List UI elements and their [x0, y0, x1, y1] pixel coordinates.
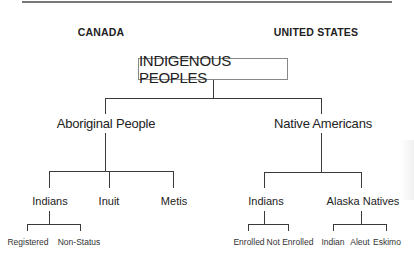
node-not-enrolled: Not Enrolled — [267, 238, 314, 247]
connector-to-eskimo — [386, 224, 387, 231]
connector-us-indians-down — [264, 211, 265, 225]
node-enrolled: Enrolled — [233, 238, 264, 247]
connector-canada-indians-horizontal — [27, 224, 81, 225]
connector-root-horizontal — [105, 98, 322, 99]
connector-alaska-down — [361, 211, 362, 225]
node-non-status: Non-Status — [58, 238, 101, 247]
connector-to-us-indians — [264, 172, 265, 188]
connector-to-non-status — [80, 224, 81, 231]
node-us-indians: Indians — [248, 196, 283, 207]
connector-to-alaska-natives — [361, 172, 362, 188]
connector-root-down — [213, 80, 214, 99]
node-aleut: Aleut — [350, 238, 369, 247]
connector-canada-horizontal — [49, 171, 174, 172]
node-inuit: Inuit — [99, 196, 120, 207]
connector-us-horizontal — [264, 172, 362, 173]
node-eskimo: Eskimo — [373, 238, 401, 247]
connector-to-not-enrolled — [288, 224, 289, 231]
top-rule — [22, 1, 392, 3]
root-node: INDIGENOUS PEOPLES — [138, 58, 288, 80]
country-label-canada: CANADA — [78, 27, 125, 38]
node-metis: Metis — [161, 196, 187, 207]
connector-us-indians-horizontal — [248, 224, 289, 225]
connector-to-canada-indians — [49, 171, 50, 188]
connector-to-us — [321, 98, 322, 114]
connector-to-indian — [333, 224, 334, 231]
node-alaska-natives: Alaska Natives — [327, 196, 400, 207]
country-label-united-states: UNITED STATES — [274, 27, 358, 38]
node-indian: Indian — [321, 238, 344, 247]
connector-to-metis — [173, 171, 174, 188]
connector-to-inuit — [109, 171, 110, 188]
node-canada-indians: Indians — [32, 196, 67, 207]
connector-canada-down — [105, 133, 106, 172]
connector-to-canada — [105, 98, 106, 114]
node-aboriginal-people: Aboriginal People — [57, 117, 156, 130]
connector-to-registered — [27, 224, 28, 231]
connector-to-enrolled — [248, 224, 249, 231]
connector-canada-indians-down — [49, 211, 50, 225]
node-native-americans: Native Americans — [274, 117, 372, 130]
connector-us-down — [321, 133, 322, 173]
connector-alaska-horizontal — [333, 224, 387, 225]
node-registered: Registered — [7, 238, 48, 247]
edge-shadow — [400, 140, 414, 200]
